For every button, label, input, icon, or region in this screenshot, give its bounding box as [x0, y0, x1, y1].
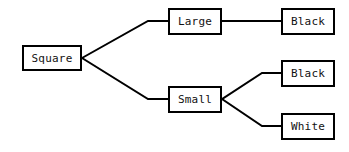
node-small-black-label: Black	[291, 68, 325, 79]
node-small-black[interactable]: Black	[281, 60, 335, 87]
node-small-white[interactable]: White	[281, 113, 335, 140]
node-small[interactable]: Small	[168, 86, 222, 113]
node-large-label: Large	[178, 16, 212, 27]
edge-square-to-large	[82, 21, 168, 58]
node-small-white-label: White	[291, 121, 325, 132]
node-small-label: Small	[178, 94, 212, 105]
node-square[interactable]: Square	[22, 45, 82, 71]
node-large-black-label: Black	[291, 16, 325, 27]
edge-small-to-black	[222, 73, 281, 99]
node-large[interactable]: Large	[168, 8, 222, 35]
edge-square-to-small	[82, 58, 168, 99]
node-square-label: Square	[32, 53, 73, 64]
edge-small-to-white	[222, 99, 281, 126]
tree-diagram: Square Large Small Black Black White	[0, 0, 349, 152]
node-large-black[interactable]: Black	[281, 8, 335, 35]
